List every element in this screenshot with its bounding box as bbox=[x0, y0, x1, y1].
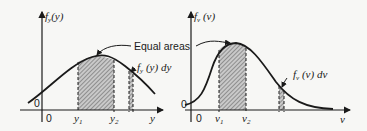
right-tick-v1: v1 bbox=[215, 113, 223, 126]
left-tick-y1: y1 bbox=[74, 113, 82, 126]
left-y-axis-label: fy(y) bbox=[45, 11, 63, 24]
right-x-axis-label: v bbox=[340, 114, 345, 125]
left-shaded-area bbox=[78, 56, 114, 110]
left-origin-x-label: 0 bbox=[46, 113, 52, 124]
left-origin-y-label: 0 bbox=[34, 98, 40, 109]
right-origin-x-label: 0 bbox=[196, 113, 202, 124]
right-strip-label: fv (v) dv bbox=[293, 69, 327, 82]
right-panel bbox=[185, 12, 350, 122]
left-strip bbox=[129, 71, 133, 110]
right-tick-v2: v2 bbox=[242, 113, 250, 126]
left-strip-label: fy (y) dy bbox=[137, 62, 171, 75]
left-x-axis-label: y bbox=[150, 113, 155, 124]
right-origin-y-label: 0 bbox=[181, 99, 187, 110]
equal-areas-annotation: Equal areas bbox=[134, 41, 190, 52]
right-y-axis-label: fv (v) bbox=[194, 11, 215, 24]
right-shaded-area bbox=[219, 43, 246, 110]
equal-areas-arrows bbox=[97, 41, 287, 87]
left-tick-y2: y2 bbox=[110, 113, 118, 126]
